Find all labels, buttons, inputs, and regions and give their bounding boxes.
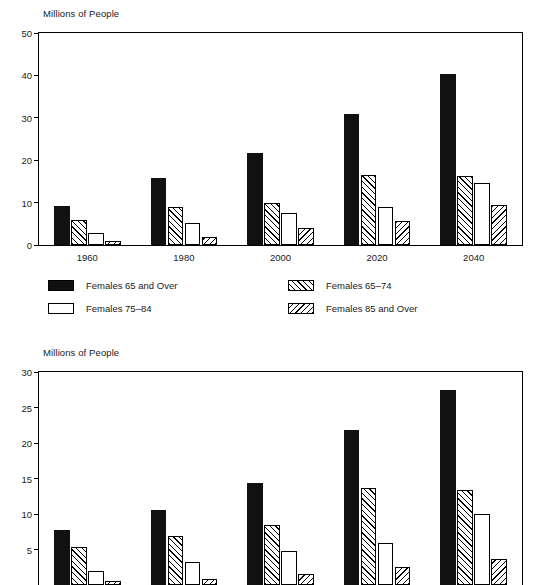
bar-3-1 [361, 488, 377, 585]
x-axis-tick-label: 1960 [77, 252, 98, 263]
bar-2-0 [247, 153, 263, 245]
legend-item-females-85-and-over[interactable]: Females 85 and Over [288, 303, 417, 314]
bar-1-3 [202, 237, 218, 245]
bar-2-3 [298, 228, 314, 245]
bar-1-3 [202, 579, 218, 585]
bar-4-2 [474, 514, 490, 585]
bar-0-2 [88, 233, 104, 245]
bar-0-0 [54, 206, 70, 245]
y-axis-tick-label: 25 [21, 402, 39, 413]
legend-label: Females 75–84 [86, 303, 151, 314]
bar-4-3 [491, 559, 507, 585]
bar-2-1 [264, 203, 280, 245]
bar-3-2 [378, 543, 394, 585]
legend-swatch-solid-icon [48, 280, 74, 291]
bar-2-2 [281, 551, 297, 585]
bar-3-0 [344, 114, 360, 245]
bar-1-2 [185, 562, 201, 585]
y-axis-tick-label: 40 [21, 70, 39, 81]
bar-0-2 [88, 571, 104, 585]
bar-4-0 [440, 390, 456, 585]
y-axis-tick-label: 10 [21, 197, 39, 208]
y-axis-tick-label: 0 [27, 240, 39, 251]
x-axis-tick-label: 2020 [367, 252, 388, 263]
bar-4-2 [474, 183, 490, 245]
legend-swatch-back-hatch-icon [288, 303, 314, 314]
bar-2-2 [281, 213, 297, 245]
plot-area-top: 0102030405019601980200020202040 [38, 32, 523, 246]
bar-2-0 [247, 483, 263, 585]
legend-item-females-65-74[interactable]: Females 65–74 [288, 280, 391, 291]
plot-area-bottom: 51015202530 [38, 371, 523, 585]
bar-0-1 [71, 547, 87, 585]
bar-1-2 [185, 223, 201, 245]
y-axis-tick-label: 5 [27, 544, 39, 555]
chart-legend: Females 65 and Over Females 65–74 Female… [0, 276, 548, 328]
y-axis-tick-label: 20 [21, 438, 39, 449]
bar-2-3 [298, 574, 314, 585]
bar-1-0 [151, 178, 167, 245]
bar-1-0 [151, 510, 167, 585]
chart-panel-bottom: Millions of People 51015202530 [0, 340, 548, 565]
legend-swatch-forward-hatch-icon [288, 280, 314, 291]
bar-0-3 [105, 241, 121, 245]
y-axis-tick-label: 20 [21, 155, 39, 166]
legend-item-females-75-84[interactable]: Females 75–84 [48, 303, 151, 314]
bar-4-1 [457, 490, 473, 585]
legend-label: Females 65 and Over [86, 280, 177, 291]
y-axis-title-bottom: Millions of People [43, 347, 119, 358]
bar-1-1 [168, 207, 184, 245]
bar-2-1 [264, 525, 280, 585]
y-axis-tick-label: 50 [21, 28, 39, 39]
y-axis-title-top: Millions of People [43, 8, 119, 19]
bar-0-3 [105, 581, 121, 585]
legend-item-females-65-and-over[interactable]: Females 65 and Over [48, 280, 177, 291]
bar-0-0 [54, 530, 70, 585]
bar-3-3 [395, 567, 411, 585]
bar-3-0 [344, 430, 360, 585]
y-axis-tick-label: 10 [21, 509, 39, 520]
bar-3-1 [361, 175, 377, 245]
y-axis-tick-label: 30 [21, 112, 39, 123]
bar-0-1 [71, 220, 87, 245]
legend-swatch-white-icon [48, 303, 74, 314]
y-axis-tick-label: 15 [21, 473, 39, 484]
bar-1-1 [168, 536, 184, 585]
x-axis-tick-label: 2000 [270, 252, 291, 263]
x-axis-tick-label: 2040 [463, 252, 484, 263]
legend-label: Females 65–74 [326, 280, 391, 291]
y-axis-tick-label: 30 [21, 367, 39, 378]
bar-4-3 [491, 205, 507, 245]
legend-label: Females 85 and Over [326, 303, 417, 314]
bar-4-0 [440, 74, 456, 245]
bar-3-3 [395, 221, 411, 245]
x-axis-tick-label: 1980 [173, 252, 194, 263]
bar-3-2 [378, 207, 394, 245]
bar-4-1 [457, 176, 473, 245]
